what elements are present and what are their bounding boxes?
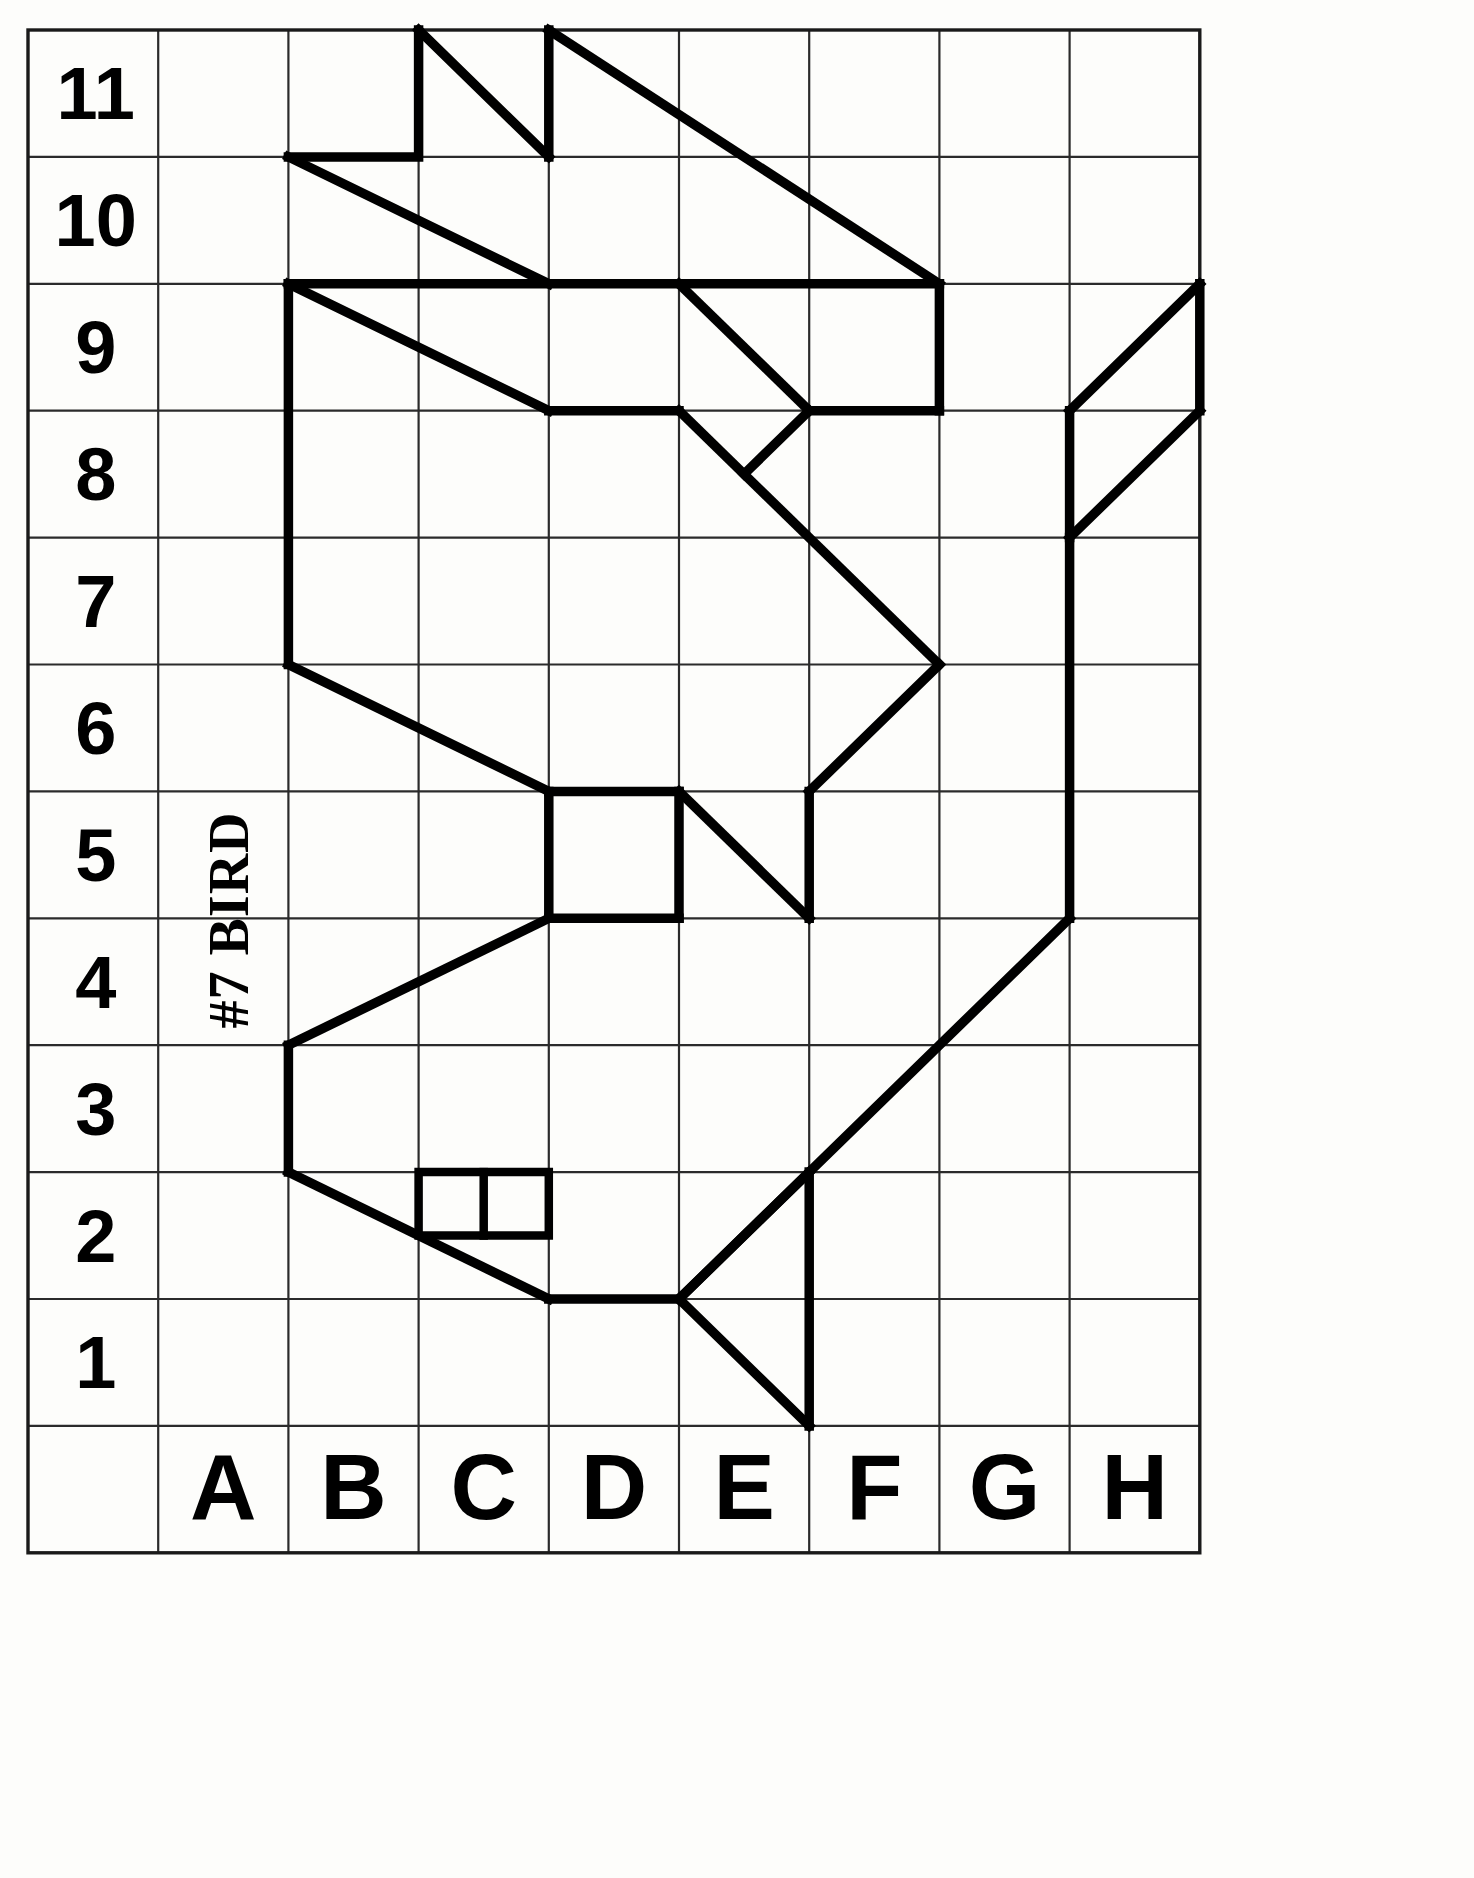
worksheet-page: 1110987654321 ABCDEFGH #7 BIRD [0,0,1474,1878]
column-label-H: H [1101,1436,1167,1538]
column-label-A: A [190,1436,256,1538]
figure-segment-head-parallelogram-lower-left [1070,411,1200,538]
figure-segment-head-parallelogram-upper-left [1070,284,1200,411]
figure-segment-breast-diagonal-down [809,665,939,792]
grid-drawing-canvas: 1110987654321 ABCDEFGH #7 BIRD [0,0,1474,1878]
row-label-1: 1 [75,1321,116,1404]
row-label-9: 9 [75,306,116,389]
row-label-2: 2 [75,1195,116,1278]
figure-segment-tail-diagonal-to-row45 [679,791,809,918]
row-label-7: 7 [75,560,116,643]
row-label-5: 5 [75,814,116,897]
row-label-6: 6 [75,687,116,770]
row-label-4: 4 [75,941,116,1024]
column-label-F: F [846,1436,902,1538]
figure-segment-tail-fork-lower [679,1299,809,1426]
figure-segment-beak-diagonal [679,918,1070,1299]
figure-segment-wing-upper-left-diagonal [419,30,549,157]
puzzle-title-group: #7 BIRD [198,811,260,1028]
bird-figure-group [288,30,1199,1426]
column-label-C: C [450,1436,516,1538]
column-label-E: E [713,1436,774,1538]
row-label-3: 3 [75,1068,116,1151]
figure-segment-chest-notch [744,411,809,474]
column-label-G: G [969,1436,1041,1538]
page-title: #7 BIRD [198,811,260,1028]
figure-segment-wing-upper-left-spike [288,30,418,157]
figure-segment-neck-diagonal-down [679,284,809,411]
row-labels-group: 1110987654321 [55,52,137,1404]
row-label-8: 8 [75,433,116,516]
column-label-D: D [581,1436,647,1538]
column-label-B: B [320,1436,386,1538]
row-label-10: 10 [55,179,137,262]
row-label-11: 11 [57,52,135,135]
